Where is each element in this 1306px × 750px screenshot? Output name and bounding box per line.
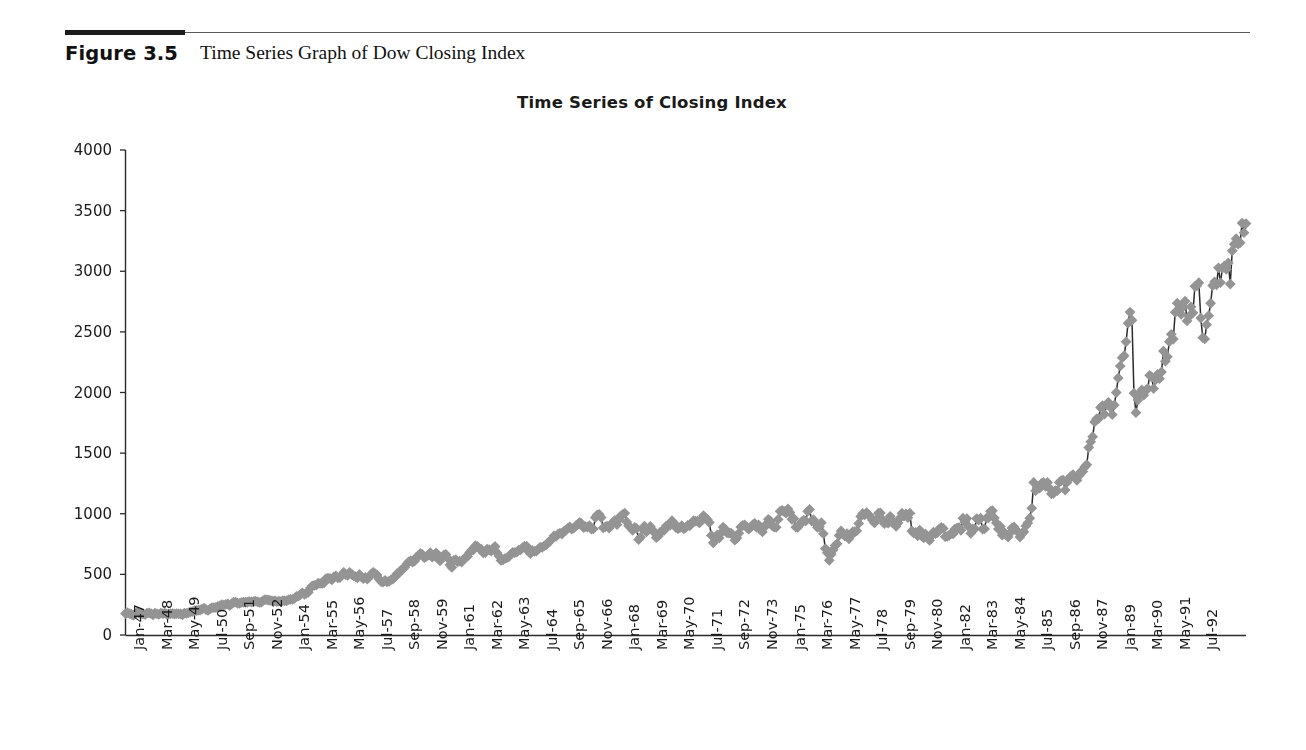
y-tick-label: 0 (42, 626, 112, 644)
y-tick-label: 500 (42, 565, 112, 583)
x-tick-label: Jul-85 (1039, 609, 1055, 650)
y-tick-label: 3500 (42, 202, 112, 220)
x-tick-label: Jan-82 (957, 604, 973, 650)
x-tick-label: Jul-64 (544, 609, 560, 650)
y-tick-label: 2000 (42, 384, 112, 402)
x-tick-label: Nov-73 (764, 598, 780, 650)
x-tick-label: Mar-69 (654, 600, 670, 650)
x-tick-label: Sep-51 (241, 599, 257, 650)
x-tick-label: May-70 (681, 597, 697, 650)
x-tick-label: Sep-65 (571, 599, 587, 650)
x-tick-label: Nov-80 (929, 598, 945, 650)
x-tick-label: Jan-75 (792, 604, 808, 650)
x-tick-label: May-56 (351, 597, 367, 650)
x-tick-label: Mar-62 (489, 600, 505, 650)
x-tick-label: Jan-47 (131, 604, 147, 650)
x-tick-label: Sep-86 (1067, 599, 1083, 650)
x-tick-label: Jan-61 (461, 604, 477, 650)
x-tick-label: Jul-71 (709, 609, 725, 650)
x-tick-label: Nov-87 (1094, 598, 1110, 650)
x-tick-label: Mar-55 (324, 600, 340, 650)
y-tick-label: 1500 (42, 444, 112, 462)
y-tick-label: 1000 (42, 505, 112, 523)
x-tick-label: May-91 (1177, 597, 1193, 650)
x-tick-label: Sep-72 (736, 599, 752, 650)
x-tick-label: Nov-66 (599, 598, 615, 650)
x-tick-label: Jan-89 (1122, 604, 1138, 650)
x-tick-label: Jul-57 (379, 609, 395, 650)
x-tick-label: Mar-76 (819, 600, 835, 650)
x-tick-label: Mar-83 (984, 600, 1000, 650)
y-tick-label: 4000 (42, 141, 112, 159)
x-tick-label: Nov-59 (434, 598, 450, 650)
x-tick-label: Sep-79 (902, 599, 918, 650)
x-tick-label: May-84 (1012, 597, 1028, 650)
x-tick-label: Sep-58 (406, 599, 422, 650)
x-tick-label: Jan-68 (626, 604, 642, 650)
figure-page: Figure 3.5 Time Series Graph of Dow Clos… (0, 0, 1306, 750)
x-tick-label: May-77 (847, 597, 863, 650)
x-tick-label: Jul-92 (1204, 609, 1220, 650)
x-tick-label: Jan-54 (296, 604, 312, 650)
x-tick-label: May-63 (516, 597, 532, 650)
x-tick-label: Mar-90 (1149, 600, 1165, 650)
x-tick-label: Jul-50 (214, 609, 230, 650)
x-tick-label: Mar-48 (159, 600, 175, 650)
x-tick-label: Jul-78 (874, 609, 890, 650)
x-tick-label: May-49 (186, 597, 202, 650)
y-tick-label: 3000 (42, 262, 112, 280)
x-tick-label: Nov-52 (269, 598, 285, 650)
y-tick-label: 2500 (42, 323, 112, 341)
